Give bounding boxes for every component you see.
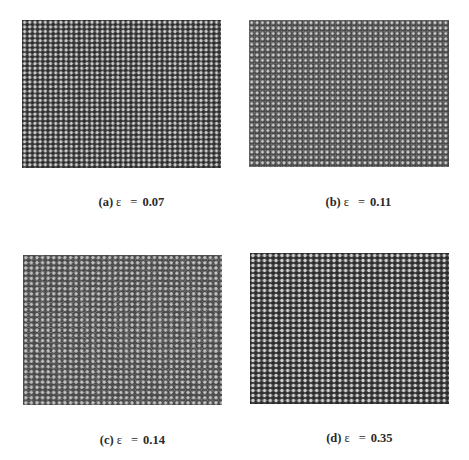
caption-label: (b) (325, 195, 340, 209)
equals-sign: = (131, 433, 138, 447)
equals-sign: = (358, 195, 365, 209)
epsilon-value: 0.14 (143, 433, 165, 447)
caption-b: (b)ε=0.11 (249, 180, 449, 225)
pattern-image-b (249, 20, 449, 167)
pattern-image-a (22, 20, 221, 168)
equals-sign: = (359, 431, 366, 445)
caption-label: (d) (326, 431, 341, 445)
epsilon-value: 0.07 (142, 195, 164, 209)
epsilon-symbol: ε (117, 433, 122, 447)
equals-sign: = (130, 195, 137, 209)
pattern-image-d (250, 253, 449, 404)
epsilon-symbol: ε (344, 195, 349, 209)
epsilon-symbol: ε (116, 195, 121, 209)
caption-a: (a)ε=0.07 (22, 180, 222, 225)
epsilon-symbol: ε (344, 431, 349, 445)
caption-c: (c)ε=0.14 (23, 418, 223, 460)
figure: (a)ε=0.07 (b)ε=0.11 (c)ε=0.14 (d)ε=0.35 (0, 0, 469, 460)
epsilon-value: 0.11 (370, 195, 391, 209)
pattern-image-c (23, 255, 222, 405)
epsilon-value: 0.35 (371, 431, 393, 445)
caption-label: (c) (100, 433, 114, 447)
caption-label: (a) (98, 195, 113, 209)
caption-d: (d)ε=0.35 (250, 416, 450, 460)
